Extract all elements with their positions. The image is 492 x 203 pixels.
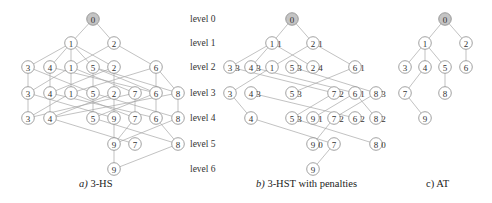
level-label: level 2 — [190, 62, 216, 72]
node-label: 2 — [311, 39, 316, 49]
tree-node: 6 — [150, 87, 163, 100]
node-label: 9 — [423, 114, 428, 124]
tree-node: 4 — [44, 112, 57, 125]
penalty-value: 2 — [360, 114, 365, 124]
tree-node: 4 — [245, 112, 258, 125]
tree-node: 11 — [266, 37, 282, 50]
node-label: 3 — [403, 63, 408, 73]
tree-node: 1 — [65, 37, 78, 50]
tree-node: 8 — [172, 138, 185, 151]
node-label: 7 — [133, 89, 138, 99]
node-label: 0 — [91, 15, 96, 25]
tree-node: 5 — [87, 61, 100, 74]
tree-node: 9 — [108, 112, 121, 125]
tree-node: 62 — [349, 112, 365, 125]
tree-node: 5 — [439, 61, 452, 74]
tree-node: 9 — [307, 163, 320, 176]
node-label: 1 — [423, 39, 428, 49]
tree-node: 3 — [399, 61, 412, 74]
node-label: 5 — [290, 114, 295, 124]
tree-node: 8 — [172, 112, 185, 125]
tree-node: 53 — [286, 61, 303, 74]
node-label: 7 — [133, 140, 138, 150]
node-label: 9 — [112, 140, 117, 150]
tree-node: 8 — [439, 87, 452, 100]
node-label: 5 — [91, 114, 96, 124]
penalty-value: 2 — [339, 89, 344, 99]
tree-node: 6 — [460, 61, 473, 74]
tree-node: 4 — [419, 61, 432, 74]
tree-node: 80 — [370, 138, 387, 151]
node-label: 1 — [270, 39, 275, 49]
penalty-value: 0 — [318, 140, 323, 150]
node-label: 3 — [26, 63, 31, 73]
tree-node: 3 — [22, 61, 35, 74]
tree-node: 61 — [349, 87, 365, 100]
node-label: 4 — [48, 114, 53, 124]
caption-a-letter: a) — [79, 178, 88, 189]
tree-node: 8 — [172, 87, 185, 100]
node-label: 6 — [154, 114, 159, 124]
tree-node: 5 — [87, 87, 100, 100]
tree-node: 1 — [266, 61, 279, 74]
tree-node: 2 — [460, 37, 473, 50]
penalty-value: 1 — [277, 39, 282, 49]
tree-node: 82 — [370, 112, 386, 125]
node-label: 8 — [374, 114, 379, 124]
penalty-value: 2 — [381, 114, 386, 124]
level-label: level 5 — [190, 139, 216, 149]
tree-node: 43 — [245, 61, 262, 74]
node-label: 8 — [374, 89, 379, 99]
tree-node: 21 — [307, 37, 323, 50]
penalty-value: 4 — [318, 63, 323, 73]
node-label: 8 — [176, 89, 181, 99]
node-label: 2 — [311, 63, 316, 73]
penalty-value: 1 — [360, 89, 365, 99]
edge-line — [114, 118, 178, 144]
penalty-value: 2 — [339, 114, 344, 124]
node-label: 8 — [176, 140, 181, 150]
node-label: 6 — [353, 114, 358, 124]
caption-c: c) AT — [426, 178, 449, 189]
caption-b-text: 3-HST with penalties — [265, 178, 357, 189]
penalty-value: 1 — [360, 63, 365, 73]
edge-line — [114, 144, 178, 169]
penalty-value: 3 — [297, 89, 302, 99]
tree-node: 24 — [307, 61, 324, 74]
node-label: 5 — [91, 63, 96, 73]
node-label: 2 — [112, 39, 117, 49]
diagram-canvas: 0123415263415276834597689789011213343153… — [0, 0, 492, 203]
penalty-value: 3 — [235, 63, 240, 73]
level-label: level 1 — [190, 38, 216, 48]
node-label: 0 — [443, 15, 448, 25]
penalty-value: 3 — [297, 63, 302, 73]
node-label: 4 — [48, 63, 53, 73]
node-label: 2 — [112, 63, 117, 73]
tree-node: 2 — [108, 37, 121, 50]
tree-node: 61 — [349, 61, 365, 74]
penalty-value: 0 — [381, 140, 386, 150]
node-label: 6 — [154, 89, 159, 99]
caption-c-text: AT — [434, 178, 449, 189]
node-label: 9 — [311, 140, 316, 150]
tree-node: 9 — [108, 163, 121, 176]
node-label: 1 — [69, 39, 74, 49]
tree-node: 1 — [65, 61, 78, 74]
root-node: 0 — [87, 13, 100, 26]
node-label: 7 — [332, 89, 337, 99]
node-label: 5 — [91, 89, 96, 99]
tree-node: 7 — [328, 138, 341, 151]
node-label: 6 — [154, 63, 159, 73]
node-label: 3 — [26, 114, 31, 124]
node-label: 5 — [443, 63, 448, 73]
tree-node: 7 — [129, 87, 142, 100]
node-label: 6 — [353, 89, 358, 99]
node-label: 4 — [249, 89, 254, 99]
level-label: level 6 — [190, 164, 216, 174]
node-label: 6 — [464, 63, 469, 73]
caption-a: a) 3-HS — [79, 178, 113, 189]
tree-node: 6 — [150, 61, 163, 74]
penalty-value: 3 — [256, 63, 261, 73]
node-label: 4 — [249, 63, 254, 73]
node-label: 9 — [311, 165, 316, 175]
